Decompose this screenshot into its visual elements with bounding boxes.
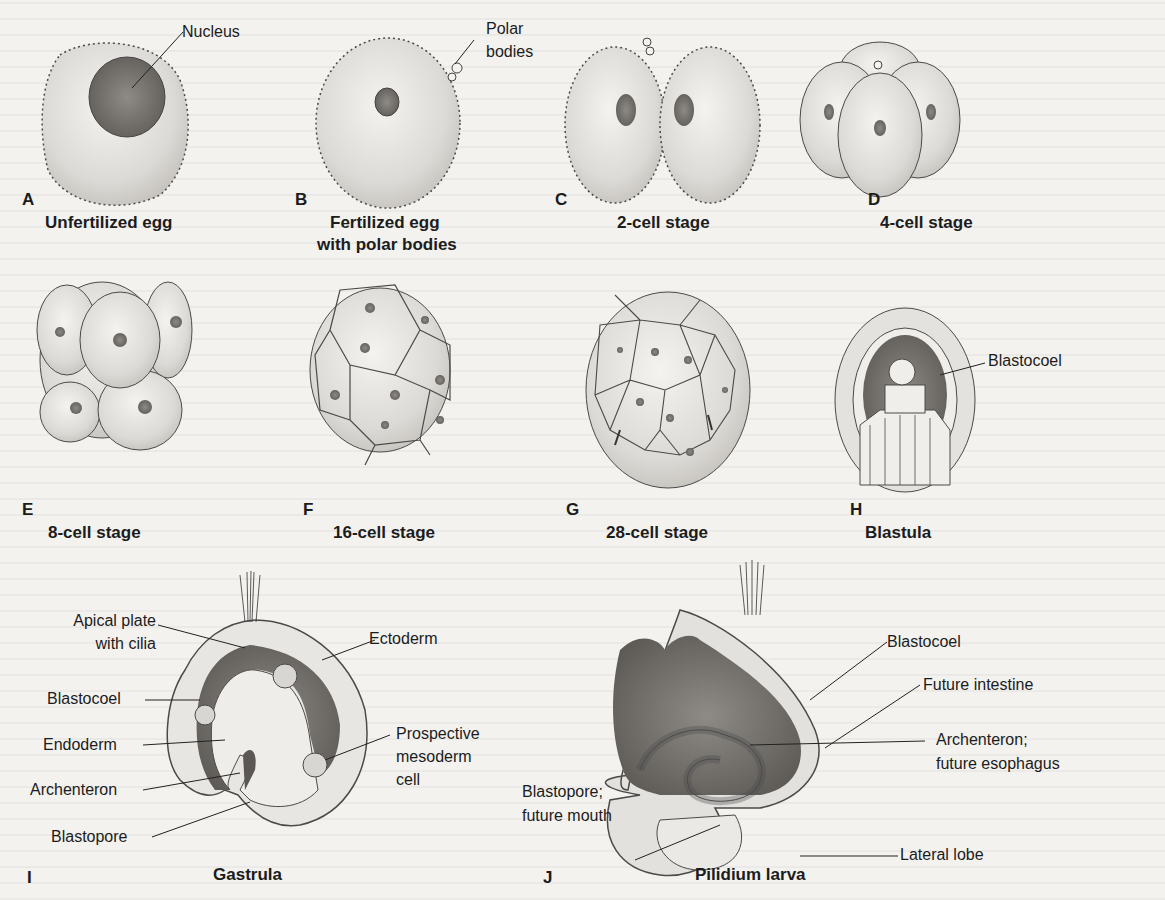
panel-letter-i: I bbox=[27, 868, 32, 888]
panel-letter-a: A bbox=[22, 190, 34, 210]
caption-28-cell-stage: 28-cell stage bbox=[606, 523, 708, 543]
label-blastocoel-blastula: Blastocoel bbox=[988, 352, 1062, 370]
four-cell-stage-illustration bbox=[800, 42, 960, 197]
caption-blastula: Blastula bbox=[865, 523, 931, 543]
label-apical-plate: Apical plate bbox=[48, 612, 156, 630]
sixteen-cell-stage-illustration bbox=[310, 285, 450, 465]
unfertilized-egg-illustration bbox=[42, 32, 188, 205]
label-future-mouth: future mouth bbox=[522, 807, 612, 825]
panel-letter-b: B bbox=[295, 190, 307, 210]
label-prospective: Prospective bbox=[396, 725, 480, 743]
panel-letter-d: D bbox=[868, 190, 880, 210]
panel-letter-g: G bbox=[566, 500, 579, 520]
fertilized-egg-illustration bbox=[316, 38, 474, 208]
gastrula-illustration bbox=[143, 571, 390, 837]
label-blastocoel-gastrula: Blastocoel bbox=[47, 690, 121, 708]
caption-2-cell-stage: 2-cell stage bbox=[617, 213, 710, 233]
panel-letter-h: H bbox=[850, 500, 862, 520]
label-blastopore-larva: Blastopore; bbox=[522, 783, 603, 801]
label-archenteron-gastrula: Archenteron bbox=[30, 781, 117, 799]
label-blastocoel-larva: Blastocoel bbox=[887, 633, 961, 651]
caption-gastrula: Gastrula bbox=[213, 865, 282, 885]
panel-letter-f: F bbox=[303, 500, 313, 520]
label-future-intestine: Future intestine bbox=[923, 676, 1033, 694]
caption-4-cell-stage: 4-cell stage bbox=[880, 213, 973, 233]
panel-letter-e: E bbox=[22, 500, 33, 520]
label-polar: Polar bbox=[486, 20, 523, 38]
label-endoderm: Endoderm bbox=[43, 736, 117, 754]
label-bodies: bodies bbox=[486, 43, 533, 61]
label-archenteron-larva: Archenteron; bbox=[936, 731, 1028, 749]
blastula-illustration bbox=[835, 308, 985, 492]
label-lateral-lobe: Lateral lobe bbox=[900, 846, 984, 864]
panel-letter-c: C bbox=[555, 190, 567, 210]
label-nucleus: Nucleus bbox=[182, 23, 240, 41]
caption-pilidium-larva: Pilidium larva bbox=[695, 865, 806, 885]
label-ectoderm: Ectoderm bbox=[369, 630, 437, 648]
panel-letter-j: J bbox=[543, 868, 552, 888]
pilidium-larva-illustration bbox=[605, 560, 925, 876]
caption-8-cell-stage: 8-cell stage bbox=[48, 523, 141, 543]
two-cell-stage-illustration bbox=[565, 38, 760, 203]
label-mesoderm: mesoderm bbox=[396, 748, 472, 766]
caption-unfertilized-egg: Unfertilized egg bbox=[45, 213, 173, 233]
caption-fertilized-egg-line1: Fertilized egg bbox=[330, 213, 440, 233]
label-blastopore-gastrula: Blastopore bbox=[51, 828, 128, 846]
caption-fertilized-egg-line2: with polar bodies bbox=[317, 235, 457, 255]
label-cell: cell bbox=[396, 771, 420, 789]
eight-cell-stage-illustration bbox=[37, 282, 192, 450]
caption-16-cell-stage: 16-cell stage bbox=[333, 523, 435, 543]
twenty-eight-cell-stage-illustration bbox=[586, 292, 750, 488]
label-future-esophagus: future esophagus bbox=[936, 755, 1060, 773]
label-with-cilia: with cilia bbox=[48, 635, 156, 653]
